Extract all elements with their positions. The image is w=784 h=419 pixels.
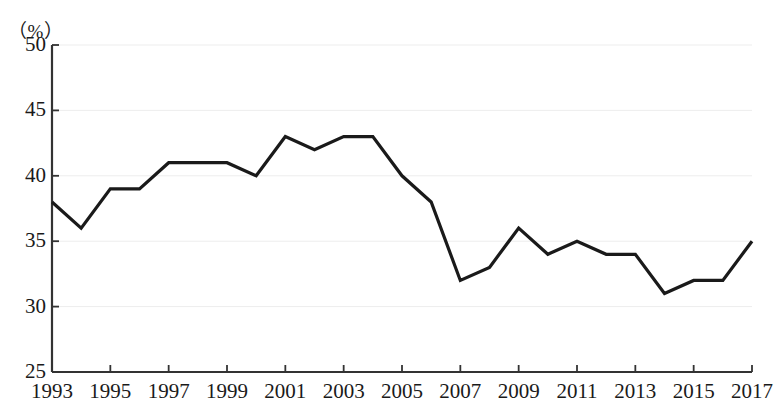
x-axis-tick-label: 2005 <box>381 381 423 402</box>
x-axis-tick-label: 2003 <box>323 381 365 402</box>
x-axis-tick-label: 2017 <box>731 381 773 402</box>
x-axis-tick-label: 2015 <box>673 381 715 402</box>
x-axis-tick-label: 2013 <box>614 381 656 402</box>
x-axis-tick-label: 2009 <box>498 381 540 402</box>
axes <box>52 45 752 372</box>
chart-page: （%） 504540353025 19931995199719992001200… <box>0 0 784 419</box>
x-axis-tick-label: 2007 <box>439 381 481 402</box>
x-axis-tick-label: 2001 <box>264 381 306 402</box>
line-chart-plot <box>0 0 784 419</box>
x-axis-tick-label: 1999 <box>206 381 248 402</box>
data-series-line <box>52 137 752 294</box>
x-axis-tick-label: 1995 <box>89 381 131 402</box>
x-axis-tick-label: 1993 <box>31 381 73 402</box>
x-axis-tick-label: 1997 <box>148 381 190 402</box>
x-axis-tick-label: 2011 <box>556 381 597 402</box>
